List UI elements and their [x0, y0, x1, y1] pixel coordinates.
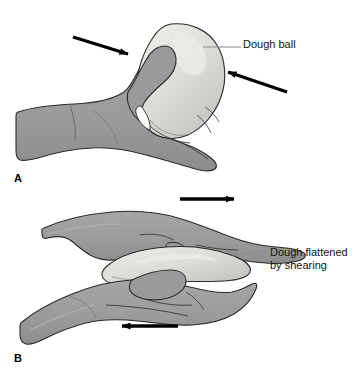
- dough-flattened-label: Dough flattenedby shearing: [270, 246, 348, 271]
- figure-container: Dough ball Dough flattenedby shearing A …: [0, 0, 352, 377]
- figure-illustration: [0, 0, 352, 377]
- dough-ball-label: Dough ball: [243, 38, 296, 51]
- panel-letter-b: B: [14, 352, 22, 364]
- dough-flattened-label-line-2: by shearing: [270, 259, 327, 271]
- dough-flattened-label-line-1: Dough flattened: [270, 246, 348, 258]
- panel-letter-a: A: [14, 172, 22, 184]
